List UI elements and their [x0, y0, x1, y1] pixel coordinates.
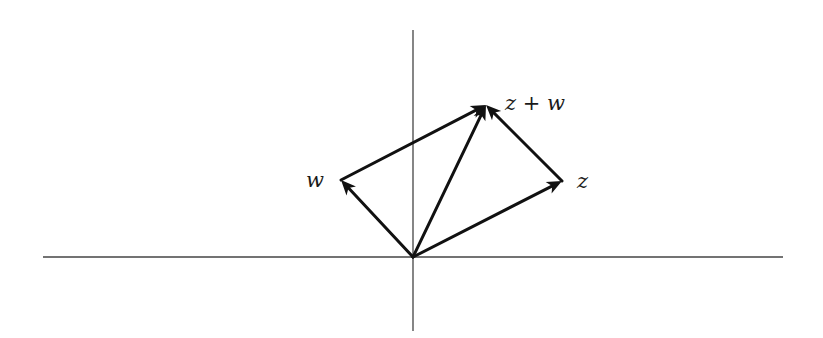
vector-z [413, 185, 555, 257]
label-z: z [577, 171, 588, 192]
vector-w-from-z [492, 111, 562, 181]
vector-arrows [341, 105, 562, 257]
label-w: w [306, 170, 324, 191]
vector-z-plus-w [413, 112, 483, 257]
vector-w [346, 186, 413, 257]
label-z-plus-w: z + w [505, 93, 565, 114]
vector-z-from-w [341, 109, 479, 180]
vector-diagram [0, 0, 823, 338]
